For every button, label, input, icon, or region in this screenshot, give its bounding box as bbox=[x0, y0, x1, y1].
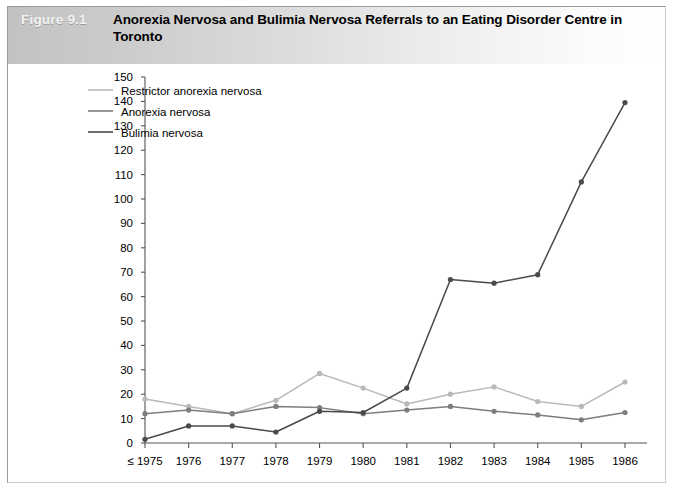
y-tick-label: 10 bbox=[120, 413, 133, 425]
y-tick-label: 90 bbox=[120, 217, 133, 229]
legend-label: Restrictor anorexia nervosa bbox=[121, 85, 262, 97]
data-point bbox=[448, 392, 453, 397]
data-point bbox=[491, 409, 496, 414]
data-point bbox=[273, 429, 278, 434]
y-tick-label: 0 bbox=[127, 437, 133, 449]
data-point bbox=[230, 411, 235, 416]
data-point bbox=[317, 409, 322, 414]
axis-lines bbox=[145, 77, 647, 443]
data-point bbox=[142, 396, 147, 401]
series-line bbox=[145, 103, 625, 440]
data-point bbox=[186, 407, 191, 412]
legend-label: Bulimia nervosa bbox=[121, 127, 203, 139]
y-tick-label: 150 bbox=[114, 71, 133, 83]
x-tick-label: 1985 bbox=[569, 455, 595, 467]
x-tick-label: 1984 bbox=[525, 455, 551, 467]
y-tick-label: 40 bbox=[120, 339, 133, 351]
series-3 bbox=[142, 100, 627, 442]
data-point bbox=[491, 281, 496, 286]
data-point bbox=[404, 407, 409, 412]
data-point bbox=[622, 379, 627, 384]
x-tick-label: 1986 bbox=[612, 455, 638, 467]
series-2 bbox=[142, 404, 627, 423]
figure-title: Anorexia Nervosa and Bulimia Nervosa Ref… bbox=[113, 11, 643, 45]
y-tick-label: 70 bbox=[120, 266, 133, 278]
data-point bbox=[317, 371, 322, 376]
x-tick-label: 1981 bbox=[394, 455, 420, 467]
y-tick-label: 120 bbox=[114, 144, 133, 156]
series-1 bbox=[142, 371, 627, 416]
data-point bbox=[230, 423, 235, 428]
data-point bbox=[404, 386, 409, 391]
data-point bbox=[491, 384, 496, 389]
data-point bbox=[186, 423, 191, 428]
data-point bbox=[579, 417, 584, 422]
series-line bbox=[145, 406, 625, 419]
series-group bbox=[142, 100, 627, 442]
data-point bbox=[404, 401, 409, 406]
y-tick-label: 100 bbox=[114, 193, 133, 205]
data-point bbox=[535, 272, 540, 277]
data-point bbox=[448, 404, 453, 409]
data-point bbox=[579, 404, 584, 409]
x-tick-label: ≤ 1975 bbox=[127, 455, 162, 467]
y-tick-label: 50 bbox=[120, 315, 133, 327]
figure-container: Figure 9.1 Anorexia Nervosa and Bulimia … bbox=[0, 0, 677, 492]
data-point bbox=[579, 179, 584, 184]
data-point bbox=[273, 398, 278, 403]
legend-label: Anorexia nervosa bbox=[121, 106, 211, 118]
x-tick-label: 1978 bbox=[263, 455, 289, 467]
data-point bbox=[535, 399, 540, 404]
data-point bbox=[622, 410, 627, 415]
series-line bbox=[145, 373, 625, 413]
x-tick-label: 1980 bbox=[350, 455, 376, 467]
y-tick-label: 60 bbox=[120, 291, 133, 303]
chart-plot-area: 0102030405060708090100110120130140150 ≤ … bbox=[8, 64, 665, 482]
data-point bbox=[448, 277, 453, 282]
x-tick-label: 1976 bbox=[176, 455, 202, 467]
data-point bbox=[535, 412, 540, 417]
y-tick-label: 110 bbox=[115, 169, 133, 181]
y-tick-label: 80 bbox=[120, 242, 133, 254]
data-point bbox=[361, 410, 366, 415]
data-point bbox=[142, 437, 147, 442]
data-point bbox=[273, 404, 278, 409]
line-chart: 0102030405060708090100110120130140150 ≤ … bbox=[8, 64, 665, 482]
data-point bbox=[361, 386, 366, 391]
figure-number-label: Figure 9.1 bbox=[21, 12, 87, 27]
x-tick-label: 1979 bbox=[307, 455, 333, 467]
x-axis-tick-labels: ≤ 19751976197719781979198019811982198319… bbox=[127, 455, 637, 467]
data-point bbox=[142, 411, 147, 416]
x-tick-label: 1977 bbox=[219, 455, 245, 467]
x-tick-label: 1982 bbox=[438, 455, 464, 467]
y-tick-label: 30 bbox=[120, 364, 133, 376]
y-tick-label: 20 bbox=[120, 388, 133, 400]
x-axis-tick-marks bbox=[145, 443, 625, 448]
x-tick-label: 1983 bbox=[481, 455, 507, 467]
data-point bbox=[622, 100, 627, 105]
